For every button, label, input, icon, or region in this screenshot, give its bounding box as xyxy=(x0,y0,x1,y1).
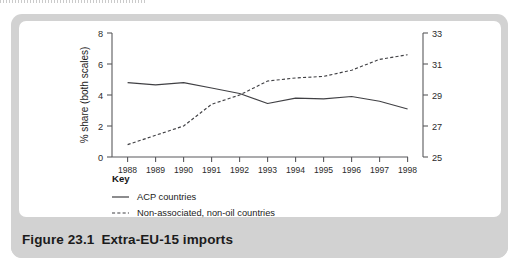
left-axis: 0 2 4 6 8 xyxy=(98,29,112,163)
series-line-non-associated xyxy=(128,55,408,145)
left-tick-8: 8 xyxy=(98,29,103,39)
series-line-acp-countries xyxy=(128,83,408,109)
key-title: Key xyxy=(112,173,130,184)
x-tick-1998: 1998 xyxy=(398,165,417,175)
x-axis: 1988 1989 1990 1991 1992 1993 1994 1995 … xyxy=(112,157,417,175)
figure-number: Figure 23.1 xyxy=(22,232,94,247)
figure-container: 0 2 4 6 8 % share (both scales) 1988 198… xyxy=(0,0,521,271)
x-tick-1992: 1992 xyxy=(230,165,249,175)
figure-title: Extra-EU-15 imports xyxy=(101,232,233,247)
page-edge-artifact xyxy=(0,0,146,3)
x-tick-1993: 1993 xyxy=(258,165,277,175)
legend-dashed-line-icon xyxy=(112,208,129,218)
figure-caption: Figure 23.1Extra-EU-15 imports xyxy=(22,232,233,247)
x-tick-1995: 1995 xyxy=(314,165,333,175)
right-tick-33: 33 xyxy=(432,29,442,39)
legend-solid-line-icon xyxy=(112,192,129,202)
x-tick-1991: 1991 xyxy=(202,165,221,175)
left-tick-2: 2 xyxy=(98,122,103,132)
right-tick-25: 25 xyxy=(432,153,442,163)
line-chart: 0 2 4 6 8 % share (both scales) 1988 198… xyxy=(19,21,501,217)
left-tick-4: 4 xyxy=(98,91,103,101)
left-tick-6: 6 xyxy=(98,60,103,70)
legend-item-acp-countries: ACP countries xyxy=(112,191,196,203)
x-tick-1994: 1994 xyxy=(286,165,305,175)
legend-label-non-associated: Non-associated, non-oil countries xyxy=(137,208,275,218)
left-tick-0: 0 xyxy=(98,153,103,163)
right-tick-31: 31 xyxy=(432,60,442,70)
right-tick-27: 27 xyxy=(432,122,442,132)
y-axis-title: % share (both scales) xyxy=(79,47,90,144)
legend-item-non-associated: Non-associated, non-oil countries xyxy=(112,207,275,219)
legend-label-acp: ACP countries xyxy=(137,192,196,202)
x-tick-1989: 1989 xyxy=(146,165,165,175)
right-tick-29: 29 xyxy=(432,91,442,101)
right-axis: 25 27 29 31 33 xyxy=(423,29,442,163)
x-tick-1997: 1997 xyxy=(370,165,389,175)
x-tick-1996: 1996 xyxy=(342,165,361,175)
x-tick-1990: 1990 xyxy=(174,165,193,175)
